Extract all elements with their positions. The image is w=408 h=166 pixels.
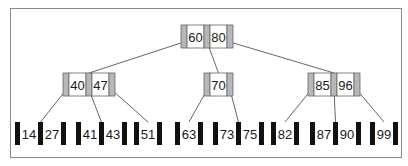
- pointer-slot: [227, 25, 233, 48]
- pointer-slot: [310, 122, 315, 145]
- leaf-node: 1427: [15, 122, 66, 145]
- tree-edge: [357, 90, 384, 122]
- internal-node: 70: [204, 73, 233, 96]
- pointer-slot: [61, 122, 66, 145]
- key-label: 87: [317, 127, 331, 142]
- pointer-slot: [109, 73, 115, 96]
- pointer-slot: [157, 122, 162, 145]
- pointer-slot: [308, 73, 314, 96]
- key-label: 70: [211, 78, 225, 93]
- pointer-slot: [198, 122, 203, 145]
- tree-edge: [112, 90, 148, 122]
- key-label: 14: [22, 127, 36, 142]
- pointer-slot: [354, 73, 360, 96]
- leaf-node: 7375: [213, 122, 264, 145]
- pointer-slot: [175, 122, 180, 145]
- key-label: 40: [70, 78, 84, 93]
- pointer-slot: [333, 122, 338, 145]
- tree-nodes: 60804047708596142741435163737582879099: [15, 25, 398, 145]
- pointer-slot: [38, 122, 43, 145]
- pointer-slot: [259, 122, 264, 145]
- key-label: 43: [106, 127, 120, 142]
- tree-edge: [41, 90, 67, 122]
- pointer-slot: [271, 122, 276, 145]
- tree-edge: [230, 42, 334, 73]
- leaf-node: 51: [134, 122, 162, 145]
- pointer-slot: [356, 122, 361, 145]
- pointer-slot: [236, 122, 241, 145]
- key-label: 27: [45, 127, 59, 142]
- leaf-node: 4143: [76, 122, 127, 145]
- key-label: 73: [220, 127, 234, 142]
- key-label: 90: [340, 127, 354, 142]
- pointer-slot: [331, 73, 337, 96]
- pointer-slot: [99, 122, 104, 145]
- internal-node: 4047: [63, 73, 115, 96]
- key-label: 41: [83, 127, 97, 142]
- leaf-node: 99: [370, 122, 398, 145]
- tree-edge: [89, 42, 184, 73]
- leaf-node: 82: [271, 122, 299, 145]
- key-label: 63: [182, 127, 196, 142]
- key-label: 99: [377, 127, 391, 142]
- pointer-slot: [213, 122, 218, 145]
- pointer-slot: [204, 25, 210, 48]
- pointer-slot: [86, 73, 92, 96]
- pointer-slot: [181, 25, 187, 48]
- key-label: 47: [93, 78, 107, 93]
- pointer-slot: [227, 73, 233, 96]
- pointer-slot: [294, 122, 299, 145]
- b-tree-diagram: 60804047708596142741435163737582879099: [0, 0, 408, 166]
- pointer-slot: [393, 122, 398, 145]
- key-label: 96: [338, 78, 352, 93]
- pointer-slot: [370, 122, 375, 145]
- key-label: 82: [278, 127, 292, 142]
- root-node: 6080: [181, 25, 233, 48]
- key-label: 51: [141, 127, 155, 142]
- leaf-node: 8790: [310, 122, 361, 145]
- internal-node: 8596: [308, 73, 360, 96]
- key-label: 85: [315, 78, 329, 93]
- pointer-slot: [15, 122, 20, 145]
- pointer-slot: [76, 122, 81, 145]
- pointer-slot: [134, 122, 139, 145]
- key-label: 80: [211, 30, 225, 45]
- key-label: 75: [243, 127, 257, 142]
- pointer-slot: [63, 73, 69, 96]
- pointer-slot: [204, 73, 210, 96]
- leaf-node: 63: [175, 122, 203, 145]
- pointer-slot: [122, 122, 127, 145]
- tree-edge: [285, 90, 311, 122]
- key-label: 60: [188, 30, 202, 45]
